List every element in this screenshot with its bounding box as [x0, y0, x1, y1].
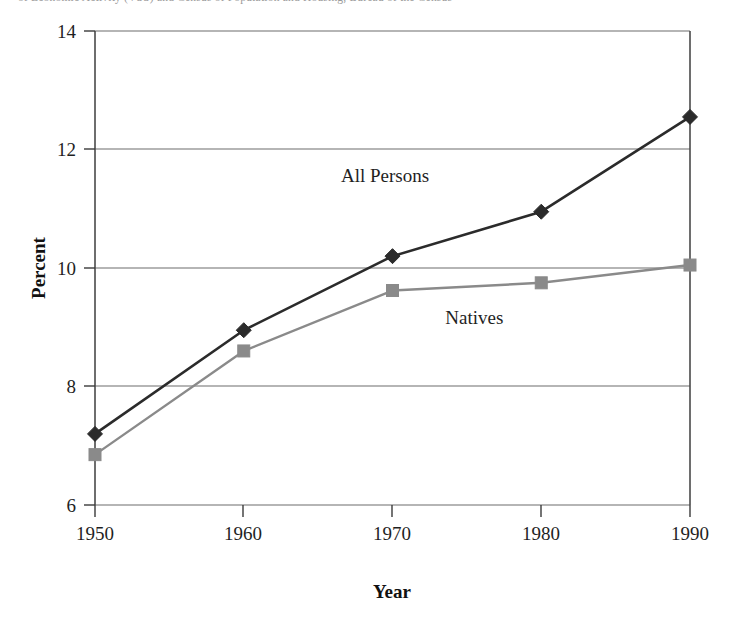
- x-axis-title: Year: [373, 581, 412, 602]
- y-tick-label-8: 8: [67, 376, 77, 397]
- marker-square: [238, 345, 250, 357]
- marker-diamond: [683, 109, 698, 124]
- marker-diamond: [385, 249, 400, 264]
- series-natives: [89, 259, 696, 461]
- y-tick-label-14: 14: [57, 21, 77, 42]
- x-tick-label-1950: 1950: [76, 523, 114, 544]
- x-tick-label-1990: 1990: [671, 523, 709, 544]
- marker-diamond: [88, 426, 103, 441]
- y-tick-label-10: 10: [57, 258, 76, 279]
- x-tick-marks: [95, 505, 690, 517]
- x-tick-labels: 1950 1960 1970 1980 1990: [76, 523, 709, 544]
- y-tick-labels: 14 12 10 8 6: [57, 21, 77, 516]
- x-tick-label-1960: 1960: [224, 523, 262, 544]
- y-tick-label-12: 12: [57, 139, 76, 160]
- marker-square: [535, 277, 547, 289]
- series-annotation-all-persons: All Persons: [341, 165, 429, 186]
- y-tick-label-6: 6: [67, 495, 77, 516]
- figure-container: of Economic Activity (VSS) and Census of…: [0, 0, 731, 629]
- marker-square: [387, 285, 399, 297]
- x-tick-label-1970: 1970: [373, 523, 411, 544]
- line-chart: 14 12 10 8 6 1950 1960 1970 1980 1990 Pe…: [0, 0, 731, 629]
- y-axis-title: Percent: [28, 236, 49, 299]
- series-layer: [88, 109, 698, 460]
- series-annotation-natives: Natives: [445, 307, 503, 328]
- marker-diamond: [534, 204, 549, 219]
- marker-square: [89, 449, 101, 461]
- marker-diamond: [236, 323, 251, 338]
- gridlines: [95, 31, 690, 505]
- marker-square: [684, 259, 696, 271]
- x-tick-label-1980: 1980: [522, 523, 560, 544]
